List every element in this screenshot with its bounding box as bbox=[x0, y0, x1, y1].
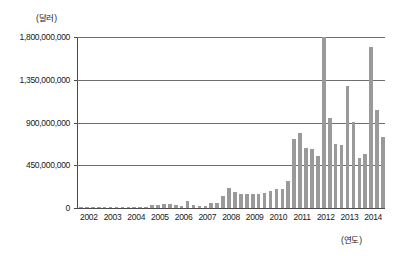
bar bbox=[192, 205, 196, 208]
bar bbox=[127, 207, 131, 208]
y-axis-tick-mark bbox=[74, 80, 77, 81]
bar bbox=[156, 205, 160, 208]
bar bbox=[286, 181, 290, 208]
bar bbox=[251, 194, 255, 208]
y-axis-tick-label: 1,800,000,000 bbox=[20, 32, 70, 42]
bar bbox=[209, 203, 213, 209]
bar bbox=[381, 137, 385, 208]
bar bbox=[352, 122, 356, 208]
bar bbox=[227, 188, 231, 208]
bar bbox=[257, 194, 261, 208]
bar bbox=[269, 191, 273, 208]
bar bbox=[215, 203, 219, 208]
y-axis-tick-label: 1,350,000,000 bbox=[20, 75, 70, 85]
bar bbox=[180, 206, 184, 208]
bar bbox=[97, 207, 101, 208]
x-axis-tick-label: 2012 bbox=[317, 212, 335, 222]
x-axis-tick-label: 2005 bbox=[151, 212, 169, 222]
bar bbox=[340, 145, 344, 208]
bar bbox=[121, 207, 125, 208]
bar bbox=[310, 149, 314, 208]
plot-area bbox=[77, 37, 385, 209]
x-axis-tick-label: 2009 bbox=[246, 212, 264, 222]
bar bbox=[263, 193, 267, 208]
bar bbox=[334, 144, 338, 208]
bar bbox=[316, 156, 320, 208]
bar bbox=[138, 207, 142, 208]
y-axis-tick-label: 450,000,000 bbox=[26, 160, 70, 170]
bar bbox=[281, 189, 285, 208]
bar-chart: (달러) 1,800,000,0001,350,000,000900,000,0… bbox=[0, 0, 400, 256]
x-axis-tick-label: 2013 bbox=[341, 212, 359, 222]
bar bbox=[144, 207, 148, 208]
y-axis-tick-mark bbox=[74, 165, 77, 166]
bar bbox=[375, 110, 379, 208]
x-axis-tick-label: 2011 bbox=[294, 212, 311, 222]
bar bbox=[103, 207, 107, 208]
x-axis-tick-label: 2006 bbox=[175, 212, 193, 222]
bar bbox=[363, 154, 367, 208]
x-axis-tick-label: 2003 bbox=[104, 212, 122, 222]
bar bbox=[109, 207, 113, 208]
x-axis-tick-label: 2014 bbox=[364, 212, 382, 222]
bar bbox=[115, 207, 119, 208]
bar bbox=[79, 207, 83, 208]
bar bbox=[198, 206, 202, 208]
bar bbox=[322, 37, 326, 208]
bar bbox=[292, 139, 296, 208]
x-axis-tick-label: 2008 bbox=[222, 212, 240, 222]
bar bbox=[168, 204, 172, 208]
x-axis-tick-label: 2004 bbox=[127, 212, 145, 222]
bar bbox=[174, 205, 178, 208]
x-axis-tick-label: 2010 bbox=[270, 212, 288, 222]
bar bbox=[328, 118, 332, 208]
bar-series bbox=[77, 37, 385, 209]
y-axis-tick-mark bbox=[74, 208, 77, 209]
bar bbox=[85, 207, 89, 208]
bar bbox=[221, 196, 225, 208]
bar bbox=[245, 194, 249, 208]
bar bbox=[275, 189, 279, 208]
y-axis-tick-mark bbox=[74, 37, 77, 38]
bar bbox=[346, 86, 350, 208]
bar bbox=[204, 206, 208, 208]
x-axis-tick-label: 2007 bbox=[198, 212, 216, 222]
bar bbox=[91, 207, 95, 208]
bar bbox=[186, 201, 190, 208]
bar bbox=[358, 158, 362, 208]
bar bbox=[369, 47, 373, 209]
bar bbox=[239, 194, 243, 208]
bar bbox=[162, 204, 166, 208]
y-axis-tick-mark bbox=[74, 123, 77, 124]
bar bbox=[132, 207, 136, 208]
y-axis-unit-label: (달러) bbox=[36, 11, 57, 23]
bar bbox=[150, 205, 154, 208]
bar bbox=[298, 133, 302, 208]
y-axis-tick-label: 900,000,000 bbox=[26, 118, 70, 128]
bar bbox=[233, 192, 237, 208]
y-axis-tick-label: 0 bbox=[66, 203, 70, 213]
x-axis-tick-label: 2002 bbox=[80, 212, 98, 222]
bar bbox=[304, 148, 308, 208]
x-axis-unit-label: (연도) bbox=[341, 233, 362, 245]
